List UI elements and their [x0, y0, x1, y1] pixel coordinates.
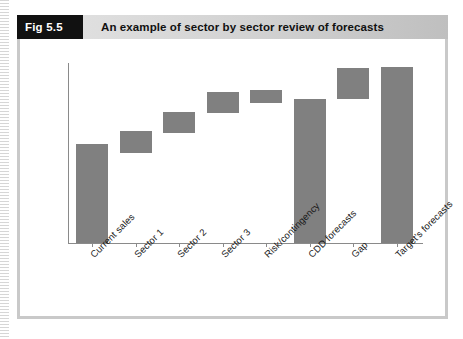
bar-gap [337, 68, 369, 99]
bar-target-s-forecasts [381, 67, 413, 243]
figure-title: An example of sector by sector review of… [101, 21, 384, 33]
figure-container: Current salesSector 1Sector 2Sector 3Ris… [17, 15, 448, 319]
x-axis-line [68, 243, 423, 244]
figure-page: Current salesSector 1Sector 2Sector 3Ris… [0, 0, 463, 339]
bar-current-sales [76, 144, 108, 243]
y-axis-line [68, 63, 69, 243]
bar-sector-2 [163, 112, 195, 134]
bar-sector-1 [120, 131, 152, 153]
figure-number-badge: Fig 5.5 [17, 15, 83, 39]
waterfall-chart: Current salesSector 1Sector 2Sector 3Ris… [20, 15, 451, 319]
scan-edge-artifact [0, 0, 9, 339]
figure-header: Fig 5.5 An example of sector by sector r… [17, 15, 448, 39]
bar-risk-contingency [250, 90, 282, 103]
bar-sector-3 [207, 92, 239, 114]
